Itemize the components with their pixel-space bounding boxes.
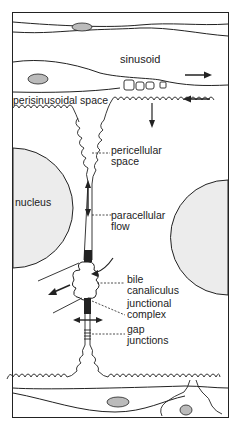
flow-arrow-down <box>149 103 155 128</box>
tight-junction-top <box>84 250 92 262</box>
nucleus-right <box>171 180 228 295</box>
paracellular-flow-arrow <box>85 180 91 217</box>
endothelial-cell-bottom-lower <box>13 393 185 412</box>
endothelial-nucleus-top <box>72 23 92 31</box>
endothelial-nucleus-mid <box>28 74 48 84</box>
bile-canaliculus-shape <box>72 262 99 300</box>
bile-inflow-arrowhead <box>91 270 98 277</box>
pericellular-channel <box>76 118 104 260</box>
label-pericellular-2: space <box>111 156 139 167</box>
endothelial-cell-top <box>13 22 228 26</box>
canaliculus-line-2 <box>53 298 82 313</box>
label-perisinusoidal-space: perisinusoidal space <box>13 95 108 106</box>
endothelial-cell-bottom <box>13 386 228 389</box>
label-gap-2: junctions <box>127 335 168 346</box>
fenestrations <box>124 80 166 90</box>
junctional-complex <box>84 298 91 314</box>
nucleus-left <box>13 148 73 268</box>
leader-lines <box>92 153 125 334</box>
label-junctional-2: complex <box>127 309 166 320</box>
flow-arrow-right <box>185 72 212 79</box>
bile-flow-arrow <box>48 285 70 295</box>
endothelial-cell-sinusoid-lower-2 <box>13 88 120 92</box>
label-sinusoid: sinusoid <box>120 54 160 65</box>
gap-junction-arrow <box>73 317 103 323</box>
kupffer-nucleus <box>180 405 192 415</box>
canaliculus-line-1 <box>38 263 79 281</box>
label-nucleus: nucleus <box>15 197 51 208</box>
label-paracellular-2: flow <box>111 221 130 232</box>
endothelial-nucleus-bottom <box>107 397 129 407</box>
label-bile-2: canaliculus <box>127 285 179 296</box>
microvilli-bottom <box>7 345 220 379</box>
endothelial-cell-top-lower <box>13 28 228 36</box>
